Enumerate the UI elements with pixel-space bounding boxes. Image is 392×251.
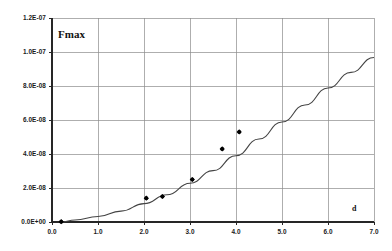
x-tick-label: 0.0 — [47, 228, 57, 235]
data-point-core — [144, 196, 148, 200]
x-tick-label: 2.0 — [139, 228, 149, 235]
data-point-core — [220, 147, 224, 151]
data-point-core — [161, 195, 165, 199]
x-tick-label: 5.0 — [277, 228, 287, 235]
x-tick-label: 1.0 — [93, 228, 103, 235]
y-tick-label: 1.0E-07 — [23, 48, 46, 55]
y-tick-label: 0.0E+00 — [21, 218, 46, 225]
x-tick-label: 3.0 — [185, 228, 195, 235]
x-tick-label: 6.0 — [323, 228, 333, 235]
y-axis-title: Fmax — [58, 28, 85, 40]
x-tick-label: 4.0 — [231, 228, 241, 235]
data-point-core — [190, 178, 194, 182]
data-point-core — [59, 220, 63, 224]
data-point-core — [237, 130, 241, 134]
fmax-vs-d-chart: 0.0E+002.0E-084.0E-086.0E-088.0E-081.0E-… — [0, 0, 392, 251]
chart-container: 0.0E+002.0E-084.0E-086.0E-088.0E-081.0E-… — [0, 0, 392, 251]
y-tick-label: 8.0E-08 — [23, 82, 46, 89]
y-tick-label: 2.0E-08 — [23, 184, 46, 191]
y-tick-label: 6.0E-08 — [23, 116, 46, 123]
y-tick-label: 1.2E-07 — [23, 14, 46, 21]
x-axis-title: d — [352, 204, 357, 213]
x-tick-label: 7.0 — [369, 228, 379, 235]
y-tick-label: 4.0E-08 — [23, 150, 46, 157]
